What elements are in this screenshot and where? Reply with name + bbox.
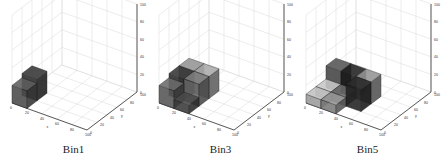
svg-text:60: 60 bbox=[120, 108, 124, 112]
svg-text:60: 60 bbox=[349, 122, 353, 126]
svg-text:80: 80 bbox=[277, 101, 281, 105]
svg-text:80: 80 bbox=[424, 101, 428, 105]
grid bbox=[159, 0, 284, 130]
svg-text:40: 40 bbox=[434, 55, 438, 59]
svg-text:40: 40 bbox=[257, 116, 261, 120]
svg-text:40: 40 bbox=[287, 55, 291, 59]
svg-text:40: 40 bbox=[334, 117, 338, 121]
svg-text:0: 0 bbox=[157, 106, 159, 110]
svg-text:40: 40 bbox=[187, 117, 191, 121]
plot-3d-bin1: 000202020404040606060808080100100100xyz bbox=[0, 0, 147, 142]
tick-labels: 000202020404040606060808080100100100xyz bbox=[304, 3, 441, 138]
svg-text:20: 20 bbox=[287, 73, 291, 77]
y-axis bbox=[234, 92, 284, 130]
svg-text:60: 60 bbox=[55, 122, 59, 126]
bar-3d bbox=[346, 77, 371, 112]
svg-text:40: 40 bbox=[40, 117, 44, 121]
svg-text:20: 20 bbox=[319, 111, 323, 115]
x-axis-label: x bbox=[341, 125, 343, 129]
plot-3d-bin5: 000202020404040606060808080100100100xyz bbox=[294, 0, 441, 142]
panel-bin5: 000202020404040606060808080100100100xyz … bbox=[294, 0, 441, 162]
bars bbox=[159, 58, 219, 114]
bar-3d bbox=[12, 78, 37, 109]
svg-text:20: 20 bbox=[247, 123, 251, 127]
svg-text:100: 100 bbox=[232, 133, 238, 137]
svg-text:40: 40 bbox=[110, 116, 114, 120]
x-axis-label: x bbox=[47, 125, 49, 129]
svg-text:20: 20 bbox=[434, 73, 438, 77]
svg-text:60: 60 bbox=[414, 108, 418, 112]
svg-text:0: 0 bbox=[10, 106, 12, 110]
svg-text:60: 60 bbox=[267, 108, 271, 112]
x-axis-label: x bbox=[194, 125, 196, 129]
y-axis-label: y bbox=[415, 114, 417, 118]
svg-text:0: 0 bbox=[304, 106, 306, 110]
svg-text:100: 100 bbox=[85, 133, 91, 137]
y-axis-label: y bbox=[121, 114, 123, 118]
svg-text:20: 20 bbox=[25, 111, 29, 115]
y-axis bbox=[381, 92, 431, 130]
panel-bin3: 000202020404040606060808080100100100xyz … bbox=[147, 0, 294, 162]
plot-3d-bin3: 000202020404040606060808080100100100xyz bbox=[147, 0, 294, 142]
svg-text:100: 100 bbox=[140, 3, 146, 7]
svg-text:80: 80 bbox=[140, 20, 144, 24]
svg-text:80: 80 bbox=[364, 128, 368, 132]
panel-label: Bin1 bbox=[0, 143, 147, 155]
svg-text:20: 20 bbox=[100, 123, 104, 127]
panel-bin1: 000202020404040606060808080100100100xyz … bbox=[0, 0, 147, 162]
svg-text:80: 80 bbox=[70, 128, 74, 132]
svg-text:40: 40 bbox=[404, 116, 408, 120]
svg-text:80: 80 bbox=[130, 101, 134, 105]
svg-text:20: 20 bbox=[172, 111, 176, 115]
bars bbox=[306, 58, 381, 114]
svg-text:80: 80 bbox=[217, 128, 221, 132]
svg-text:80: 80 bbox=[287, 20, 291, 24]
panel-label: Bin5 bbox=[294, 143, 441, 155]
svg-text:100: 100 bbox=[140, 93, 146, 97]
svg-text:20: 20 bbox=[394, 123, 398, 127]
svg-text:100: 100 bbox=[287, 3, 293, 7]
svg-text:100: 100 bbox=[434, 3, 440, 7]
svg-text:20: 20 bbox=[140, 73, 144, 77]
grid bbox=[12, 0, 137, 130]
svg-text:40: 40 bbox=[140, 55, 144, 59]
svg-text:100: 100 bbox=[434, 93, 440, 97]
bars bbox=[12, 66, 47, 109]
grid bbox=[306, 0, 431, 130]
panel-label: Bin3 bbox=[147, 143, 294, 155]
svg-text:60: 60 bbox=[202, 122, 206, 126]
svg-text:60: 60 bbox=[140, 38, 144, 42]
y-axis-label: y bbox=[268, 114, 270, 118]
svg-text:60: 60 bbox=[287, 38, 291, 42]
svg-text:100: 100 bbox=[287, 93, 293, 97]
svg-text:100: 100 bbox=[379, 133, 385, 137]
svg-text:60: 60 bbox=[434, 38, 438, 42]
y-axis bbox=[87, 92, 137, 130]
svg-text:80: 80 bbox=[434, 20, 438, 24]
